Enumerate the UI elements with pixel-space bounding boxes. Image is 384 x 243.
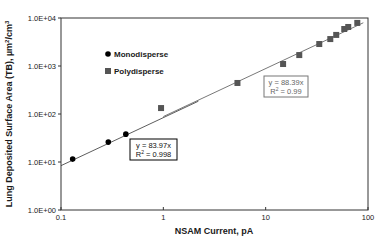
legend-label: Polydisperse — [114, 67, 164, 76]
legend-item-polydisperse: Polydisperse — [105, 67, 164, 76]
data-point-polydisperse — [158, 105, 164, 111]
data-point-polydisperse — [354, 20, 360, 26]
data-point-polydisperse — [345, 24, 351, 30]
data-point-polydisperse — [333, 32, 339, 38]
x-axis-ticks: 0.1110100 — [56, 207, 374, 222]
x-axis-title: NSAM Current, pA — [175, 226, 254, 236]
fit-r-squared: R2 = 0.998 — [136, 149, 172, 159]
x-tick-label: 0.1 — [56, 213, 66, 222]
y-axis-ticks: 1.0E+001.0E+011.0E+021.0E+031.0E+04 — [28, 14, 61, 215]
data-point-monodisperse — [106, 139, 112, 145]
x-tick-label: 10 — [261, 213, 269, 222]
data-point-polydisperse — [234, 80, 240, 86]
y-tick-label: 1.0E+00 — [28, 206, 56, 215]
legend-item-monodisperse: Monodisperse — [105, 50, 169, 59]
legend-label: Monodisperse — [114, 50, 169, 59]
y-tick-label: 1.0E+03 — [28, 62, 56, 71]
x-tick-label: 1 — [161, 213, 165, 222]
y-tick-label: 1.0E+02 — [28, 110, 56, 119]
data-point-polydisperse — [316, 41, 322, 47]
y-tick-label: 1.0E+01 — [28, 158, 56, 167]
data-point-polydisperse — [327, 36, 333, 42]
legend: Monodisperse Polydisperse — [105, 50, 169, 76]
data-point-monodisperse — [70, 156, 76, 162]
scatter-chart: 1.0E+001.0E+011.0E+021.0E+031.0E+04 0.11… — [0, 0, 384, 243]
data-point-polydisperse — [296, 52, 302, 58]
y-tick-label: 1.0E+04 — [28, 14, 56, 23]
y-axis-title: Lung Deposited Surface Area (TB), µm2/cm… — [4, 20, 14, 207]
circle-marker-icon — [105, 51, 111, 57]
plot-area — [61, 20, 363, 166]
fit-equation: y = 88.39x — [269, 78, 304, 87]
square-marker-icon — [105, 68, 111, 74]
fit-r-squared: R2 = 0.99 — [270, 86, 301, 96]
fit-equation-box-monodisperse: y = 83.97x R2 = 0.998 — [130, 139, 177, 160]
data-point-polydisperse — [280, 61, 286, 67]
data-point-monodisperse — [123, 131, 129, 137]
x-tick-label: 100 — [362, 213, 375, 222]
fit-equation-box-polydisperse: y = 88.39x R2 = 0.99 — [264, 76, 308, 97]
